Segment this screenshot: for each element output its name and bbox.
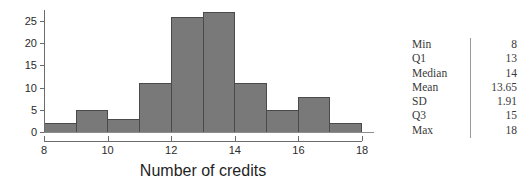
table-row: Q113 [412,52,517,66]
histogram-bar [266,110,299,132]
stat-label: SD [412,95,471,109]
x-axis-tick [44,136,45,141]
plot-area [44,10,362,132]
x-axis-tick [171,136,172,141]
y-axis-tick [40,88,44,89]
x-axis-tick-label: 8 [41,144,47,156]
histogram-figure: 0510152025 81012141618 Number of credits… [0,0,525,191]
y-axis-tick-label: 10 [25,82,37,94]
x-axis-tick-label: 10 [101,144,113,156]
stat-label: Mean [412,81,471,95]
x-axis-tick [235,136,236,141]
table-row: Mean13.65 [412,81,517,95]
histogram-bar [234,83,267,132]
summary-statistics-table: Min8Q113Median14Mean13.65SD1.91Q315Max18 [412,38,517,138]
x-axis-line [44,141,362,142]
stat-label: Min [412,38,471,52]
histogram-bar [298,97,331,132]
y-axis-tick-label: 20 [25,37,37,49]
histogram-bars [44,10,362,132]
histogram-bar [107,119,140,132]
x-axis-tick-label: 14 [229,144,241,156]
histogram-bar [329,123,362,132]
y-axis-tick-label: 15 [25,59,37,71]
stat-label: Q3 [412,109,471,123]
stat-label: Max [412,124,471,138]
y-axis-tick [40,43,44,44]
stat-label: Median [412,67,471,81]
x-axis-tick [362,136,363,141]
stat-value: 13 [471,52,518,66]
histogram-bar [171,17,204,132]
y-axis-tick-label: 0 [31,126,37,138]
x-axis-tick [298,136,299,141]
x-axis-tick-label: 12 [165,144,177,156]
table-row: Max18 [412,124,517,138]
x-axis-tick-label: 18 [356,144,368,156]
stat-value: 13.65 [471,81,518,95]
summary-statistics-panel: Min8Q113Median14Mean13.65SD1.91Q315Max18 [412,38,517,138]
stat-label: Q1 [412,52,471,66]
histogram-bar [76,110,109,132]
x-axis-tick-label: 16 [292,144,304,156]
table-row: Min8 [412,38,517,52]
histogram-bar [139,83,172,132]
table-row: Median14 [412,67,517,81]
histogram-bar [44,123,77,132]
y-axis-tick [40,21,44,22]
x-axis-tick [108,136,109,141]
y-axis-tick-label: 25 [25,15,37,27]
y-axis-tick [40,65,44,66]
histogram-bar [203,12,236,132]
stat-value: 15 [471,109,518,123]
plot-baseline [44,132,374,133]
x-axis-title: Number of credits [44,162,362,180]
table-row: Q315 [412,109,517,123]
stat-value: 1.91 [471,95,518,109]
stat-value: 8 [471,38,518,52]
y-axis-tick-label: 5 [31,104,37,116]
table-row: SD1.91 [412,95,517,109]
histogram-chart: 0510152025 81012141618 Number of credits [0,0,400,191]
y-axis-line [44,10,45,132]
stat-value: 14 [471,67,518,81]
y-axis-tick [40,110,44,111]
stat-value: 18 [471,124,518,138]
